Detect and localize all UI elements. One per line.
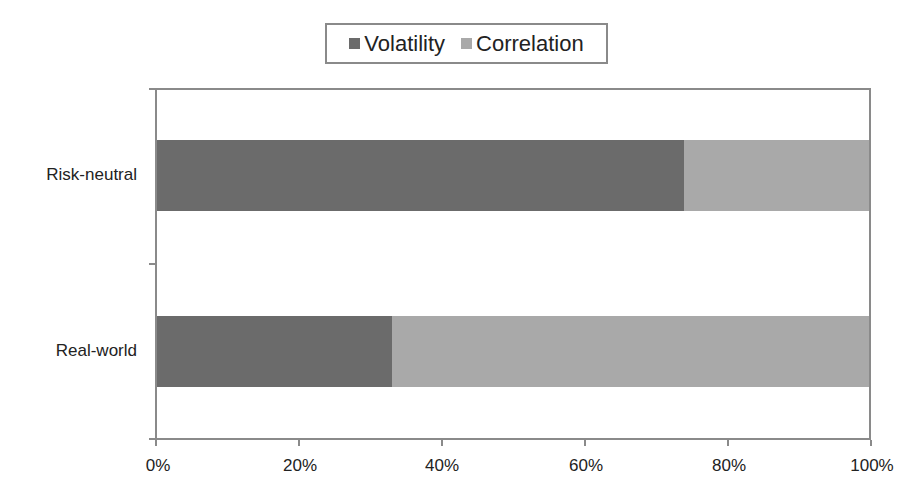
x-axis-tick <box>441 440 443 446</box>
bar-segment-volatility <box>157 316 392 387</box>
bar-segment-correlation <box>684 140 869 211</box>
bar-segment-volatility <box>157 140 684 211</box>
chart-legend: Volatility Correlation <box>325 23 608 64</box>
legend-swatch-correlation <box>461 38 472 49</box>
legend-item-volatility: Volatility <box>349 31 445 57</box>
x-axis-tick <box>155 440 157 446</box>
x-axis-tick <box>727 440 729 446</box>
x-axis-label: 60% <box>569 456 603 476</box>
x-axis-tick <box>584 440 586 446</box>
x-axis-tick <box>870 440 872 446</box>
bar-segment-correlation <box>392 316 869 387</box>
bar-risk-neutral <box>157 140 869 211</box>
x-axis-label: 80% <box>712 456 746 476</box>
x-axis-label: 100% <box>850 456 893 476</box>
legend-item-correlation: Correlation <box>461 31 584 57</box>
category-label-risk-neutral: Risk-neutral <box>0 165 137 185</box>
legend-swatch-volatility <box>349 38 360 49</box>
x-axis-tick <box>298 440 300 446</box>
x-axis-label: 40% <box>425 456 459 476</box>
x-axis-label: 20% <box>283 456 317 476</box>
legend-label-volatility: Volatility <box>364 31 445 57</box>
bar-real-world <box>157 316 869 387</box>
legend-label-correlation: Correlation <box>476 31 584 57</box>
plot-area <box>155 88 871 440</box>
x-axis-label: 0% <box>146 456 171 476</box>
category-label-real-world: Real-world <box>0 341 137 361</box>
